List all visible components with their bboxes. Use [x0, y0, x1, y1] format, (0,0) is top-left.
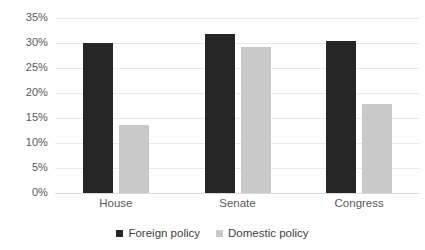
gridline [55, 18, 420, 19]
legend-swatch-icon [216, 230, 223, 237]
bar [205, 34, 235, 193]
chart-legend: Foreign policyDomestic policy [0, 225, 425, 241]
bar [119, 125, 149, 193]
x-tick-label: House [55, 196, 177, 210]
legend-label: Foreign policy [128, 227, 200, 240]
y-tick-label: 10% [2, 137, 48, 148]
x-axis: HouseSenateCongress [55, 196, 420, 214]
y-tick-label: 30% [2, 37, 48, 48]
y-tick-label: 35% [2, 12, 48, 23]
y-tick-label: 15% [2, 112, 48, 123]
y-tick-label: 20% [2, 87, 48, 98]
x-tick-label: Congress [298, 196, 420, 210]
legend-swatch-icon [116, 230, 123, 237]
bar [326, 41, 356, 193]
plot-area [55, 18, 420, 193]
y-tick-label: 5% [2, 162, 48, 173]
x-tick-label: Senate [177, 196, 299, 210]
y-tick-label: 25% [2, 62, 48, 73]
y-axis: 35%30%25%20%15%10%5%0% [0, 0, 48, 250]
bar [362, 104, 392, 193]
legend-item[interactable]: Domestic policy [216, 227, 309, 240]
bar [241, 47, 271, 193]
bar-chart: 35%30%25%20%15%10%5%0% HouseSenateCongre… [0, 0, 425, 250]
legend-item[interactable]: Foreign policy [116, 227, 200, 240]
legend-label: Domestic policy [228, 227, 309, 240]
bar [83, 43, 113, 193]
y-tick-label: 0% [2, 187, 48, 198]
axis-baseline [55, 193, 420, 194]
